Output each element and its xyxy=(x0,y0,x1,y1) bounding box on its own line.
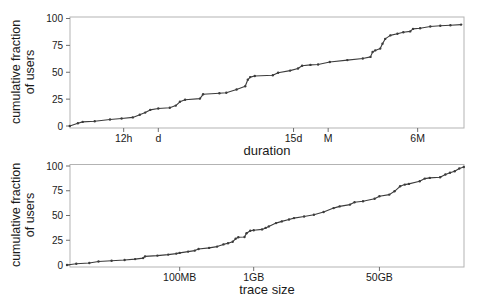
cdf-figure: cumulative fraction of users 02550751001… xyxy=(0,0,484,307)
data-point-marker xyxy=(222,243,224,245)
data-point-marker xyxy=(379,47,381,49)
data-point-marker xyxy=(97,260,99,262)
data-point-marker xyxy=(439,176,441,178)
data-point-marker xyxy=(225,92,227,94)
data-point-marker xyxy=(156,254,158,256)
data-point-marker xyxy=(396,33,398,35)
data-point-marker xyxy=(408,183,410,185)
plot-frame xyxy=(70,165,464,268)
data-point-marker xyxy=(393,190,395,192)
data-point-marker xyxy=(458,167,460,169)
data-point-marker xyxy=(371,51,373,53)
data-point-marker xyxy=(429,177,431,179)
data-point-marker xyxy=(237,236,239,238)
data-point-marker xyxy=(297,67,299,69)
data-point-marker xyxy=(247,79,249,81)
data-point-marker xyxy=(254,75,256,77)
data-point-marker xyxy=(412,28,414,30)
y-tick-label: 0 xyxy=(57,260,63,271)
data-point-marker xyxy=(179,101,181,103)
data-point-marker xyxy=(313,214,315,216)
data-point-marker xyxy=(249,230,251,232)
x-tick-label: 6M xyxy=(410,132,425,144)
data-point-marker xyxy=(454,170,456,172)
data-point-marker xyxy=(424,177,426,179)
data-point-marker xyxy=(381,43,383,45)
data-point-marker xyxy=(184,99,186,101)
data-point-marker xyxy=(444,173,446,175)
data-point-marker xyxy=(272,74,274,76)
x-tick-label: 12h xyxy=(115,132,133,144)
data-point-marker xyxy=(243,236,245,238)
data-point-marker xyxy=(157,107,159,109)
data-point-marker xyxy=(244,85,246,87)
data-point-marker xyxy=(234,238,236,240)
data-point-marker xyxy=(139,114,141,116)
data-point-marker xyxy=(169,107,171,109)
data-point-marker xyxy=(275,222,277,224)
data-point-marker xyxy=(404,183,406,185)
data-point-marker xyxy=(369,56,371,58)
data-point-marker xyxy=(373,198,375,200)
trace-size-cdf-chart: 0255075100100MB1GB50GBtrace size xyxy=(0,150,484,307)
data-point-marker xyxy=(301,65,303,67)
cdf-curve xyxy=(67,167,464,265)
data-point-marker xyxy=(346,59,348,61)
data-point-marker xyxy=(144,111,146,113)
data-point-marker xyxy=(187,250,189,252)
data-point-marker xyxy=(218,92,220,94)
data-point-marker xyxy=(202,93,204,95)
y-tick-label: 75 xyxy=(52,185,64,196)
data-point-marker xyxy=(227,242,229,244)
data-point-marker xyxy=(216,245,218,247)
data-point-marker xyxy=(132,116,134,118)
data-point-marker xyxy=(75,263,77,265)
data-point-marker xyxy=(69,125,71,127)
data-point-marker xyxy=(235,88,237,90)
data-point-marker xyxy=(378,195,380,197)
data-point-marker xyxy=(277,72,279,74)
data-point-marker xyxy=(144,255,146,257)
x-tick-label: M xyxy=(324,132,333,144)
x-tick-label: 100MB xyxy=(163,271,196,283)
data-point-marker xyxy=(402,31,404,33)
data-point-marker xyxy=(399,185,401,187)
data-point-marker xyxy=(142,257,144,259)
data-point-marker xyxy=(264,227,266,229)
data-point-marker xyxy=(429,25,431,27)
y-tick-label: 25 xyxy=(52,94,64,105)
data-point-marker xyxy=(362,200,364,202)
data-point-marker xyxy=(332,207,334,209)
data-point-marker xyxy=(199,97,201,99)
data-point-marker xyxy=(253,229,255,231)
data-point-marker xyxy=(149,109,151,111)
data-point-marker xyxy=(293,217,295,219)
data-point-marker xyxy=(374,49,376,51)
data-point-marker xyxy=(303,215,305,217)
data-point-marker xyxy=(197,248,199,250)
data-point-marker xyxy=(409,30,411,32)
y-tick-label: 50 xyxy=(52,210,64,221)
data-point-marker xyxy=(109,118,111,120)
data-point-marker xyxy=(317,63,319,65)
data-point-marker xyxy=(249,76,251,78)
data-point-marker xyxy=(338,205,340,207)
data-point-marker xyxy=(232,241,234,243)
data-point-marker xyxy=(120,117,122,119)
data-point-marker xyxy=(388,193,390,195)
data-point-marker xyxy=(94,120,96,122)
y-tick-label: 100 xyxy=(46,13,63,24)
data-point-marker xyxy=(289,69,291,71)
y-tick-label: 100 xyxy=(46,161,63,172)
y-tick-label: 50 xyxy=(52,67,64,78)
data-point-marker xyxy=(110,260,112,262)
data-point-marker xyxy=(389,34,391,36)
data-point-marker xyxy=(419,27,421,29)
data-point-marker xyxy=(419,180,421,182)
x-tick-label: 50GB xyxy=(366,271,393,283)
data-point-marker xyxy=(175,252,177,254)
data-point-marker xyxy=(134,258,136,260)
data-point-marker xyxy=(194,249,196,251)
data-point-marker xyxy=(449,24,451,26)
y-tick-label: 25 xyxy=(52,235,64,246)
